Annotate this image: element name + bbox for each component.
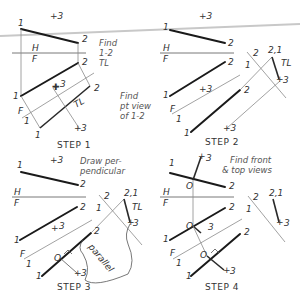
point-3-marker: + [276, 217, 284, 227]
label-1-aux: 1 [186, 271, 192, 281]
label-2-aux: 2 [94, 226, 100, 236]
label-2-top: 2 [229, 181, 235, 191]
step-3-panel: 1 +3 2 H F 2 1 + 3 F 1 2 1 O + 3 2 1 2,1… [12, 155, 143, 292]
label-1-aux: 1 [36, 271, 42, 281]
label-1-top: 1 [169, 158, 175, 168]
label-3-top: +3 [50, 155, 64, 165]
label-o-front: O [186, 221, 193, 231]
line-1-2-top-view [21, 29, 78, 43]
label-1-top: 1 [17, 160, 23, 170]
label-21: 2,1 [268, 45, 282, 55]
label-3-front: 3 [208, 222, 214, 232]
note-line: pendicular [79, 166, 125, 176]
label-1-aux: 1 [184, 128, 190, 138]
label-h: H [163, 187, 170, 197]
label-f: F [163, 198, 169, 208]
label-2-sec: 2 [104, 191, 110, 201]
label-1-fold: 1 [176, 114, 182, 124]
line-1-2-front-view [20, 207, 77, 240]
note-line: Find front [230, 155, 272, 165]
label-2-sec: 2 [253, 192, 259, 202]
label-f: F [32, 54, 38, 64]
step-4-panel: 1 + 3 O 2 H F 2 1 O 3 F 1 2 1 O + 3 2 1 … [160, 151, 290, 292]
label-h: H [32, 43, 39, 53]
note-line: & top views [222, 165, 273, 175]
label-f1: F [170, 104, 176, 114]
label-h: H [14, 187, 21, 197]
line-1-2-top-view [170, 30, 225, 43]
label-1-sec: 1 [246, 204, 252, 214]
label-f1: F [18, 106, 24, 116]
label-3-sec: 3 [133, 218, 139, 228]
label-f1: F [170, 248, 176, 258]
label-2-sec: 2 [253, 48, 259, 58]
label-1-fold: 1 [26, 259, 32, 269]
label-3-aux: +3 [223, 123, 237, 133]
label-21: 2,1 [269, 188, 283, 198]
line-1-2-top-view [170, 173, 225, 187]
note-line: Find [120, 91, 139, 101]
label-3-top: +3 [50, 11, 64, 21]
descriptive-geometry-diagram: 1 +3 2 H F 2 1 ✚ 3 2 F 1 1 TL + 3 Find 1… [0, 0, 300, 302]
label-3-front: +3 [199, 84, 213, 94]
label-1-sec: 1 [96, 203, 102, 213]
label-o-top: O [186, 181, 193, 191]
label-2-top: 2 [80, 179, 86, 189]
label-2-aux: 2 [244, 85, 250, 95]
label-1-top: 1 [18, 18, 24, 28]
note-line: Find [99, 38, 118, 48]
label-1-fold: 1 [24, 116, 30, 126]
label-2-top: 2 [82, 34, 88, 44]
label-2-front: 2 [229, 202, 235, 212]
line-1-2-top-view [21, 172, 78, 185]
label-2-aux: 2 [94, 83, 100, 93]
label-1-front: 1 [163, 90, 169, 100]
note-line: TL [99, 58, 109, 68]
label-3-top: +3 [199, 11, 213, 21]
label-tl: TL [132, 202, 143, 212]
shortest-distance-aux [207, 256, 224, 270]
point-3-marker: ✚ [52, 82, 60, 92]
label-2-top: 2 [228, 38, 234, 48]
step-label: STEP 1 [57, 140, 91, 150]
line-1-2-front-view [170, 62, 225, 96]
label-3-top: 3 [206, 153, 212, 163]
point-3-marker: + [51, 223, 59, 233]
label-f: F [14, 198, 20, 208]
note-line: of 1-2 [120, 111, 145, 121]
step-label: STEP 4 [205, 282, 239, 292]
label-1-front: 1 [13, 91, 19, 101]
label-2-front: 2 [228, 57, 234, 67]
note-line: Draw per- [80, 156, 122, 166]
note-line: 1-2 [99, 48, 113, 58]
label-1-front: 1 [163, 234, 169, 244]
label-2-front: 2 [82, 57, 88, 67]
label-h: H [163, 43, 170, 53]
folding-line-f-1 [172, 75, 240, 114]
step-label: STEP 2 [205, 137, 239, 147]
label-2-front: 2 [80, 202, 86, 212]
label-21: 2,1 [124, 188, 138, 198]
label-1-aux: 1 [35, 130, 41, 140]
label-2-aux: 2 [244, 227, 250, 237]
projector-3-sec [227, 81, 280, 128]
label-o-aux: O [200, 250, 207, 260]
label-parallel: parallel [86, 241, 116, 274]
label-1-sec: 1 [245, 60, 251, 70]
label-3-front: 3 [60, 79, 66, 89]
label-3-front: 3 [59, 221, 65, 231]
label-f: F [163, 54, 169, 64]
point-3-marker: + [198, 151, 206, 161]
parallel-brace [80, 224, 132, 283]
line-1-2-front-view [21, 63, 78, 96]
label-1-top: 1 [163, 22, 169, 32]
label-tl: TL [281, 58, 292, 68]
label-3-aux: 3 [230, 266, 236, 276]
label-1-front: 1 [14, 235, 20, 245]
label-3-aux: 3 [81, 268, 87, 278]
label-3-sec: 3 [283, 75, 289, 85]
label-tl: TL [72, 96, 86, 110]
note-line: pt view [119, 101, 151, 111]
label-3-sec: 3 [284, 218, 290, 228]
label-3-aux-num: 3 [81, 123, 87, 133]
